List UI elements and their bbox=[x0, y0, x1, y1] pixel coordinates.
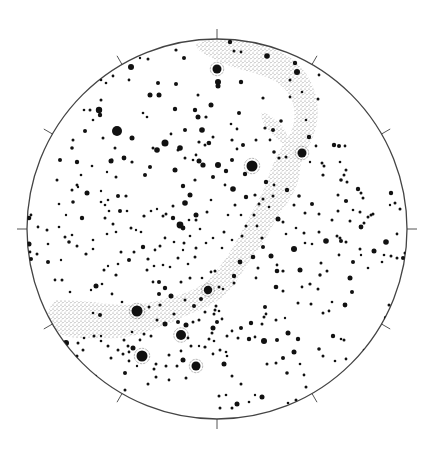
horizon-tick bbox=[44, 324, 53, 329]
star bbox=[331, 334, 335, 338]
star bbox=[255, 277, 258, 280]
star bbox=[172, 312, 175, 315]
star bbox=[286, 331, 291, 336]
horizon-tick bbox=[382, 129, 391, 134]
star bbox=[321, 173, 324, 176]
star bbox=[101, 283, 104, 286]
star bbox=[234, 204, 237, 207]
star bbox=[285, 156, 288, 159]
star bbox=[104, 217, 107, 220]
star bbox=[156, 319, 159, 322]
horizon-tick bbox=[44, 129, 53, 134]
star bbox=[255, 139, 258, 142]
star bbox=[187, 263, 190, 266]
star bbox=[146, 116, 149, 119]
star bbox=[303, 232, 306, 235]
star bbox=[348, 276, 353, 281]
star bbox=[124, 389, 127, 392]
star bbox=[295, 399, 298, 402]
star bbox=[71, 234, 74, 237]
star bbox=[111, 159, 114, 162]
star bbox=[106, 171, 108, 173]
star bbox=[231, 407, 234, 410]
star bbox=[182, 200, 188, 206]
star bbox=[388, 304, 391, 307]
star bbox=[230, 158, 234, 162]
star bbox=[363, 222, 366, 225]
star bbox=[261, 338, 267, 344]
star bbox=[198, 345, 200, 347]
bright-star bbox=[298, 149, 307, 158]
star bbox=[227, 214, 230, 217]
star bbox=[337, 210, 340, 213]
star bbox=[249, 321, 253, 325]
star bbox=[188, 219, 191, 222]
star bbox=[231, 375, 234, 378]
star bbox=[69, 291, 72, 294]
horizon-tick bbox=[117, 56, 122, 65]
star bbox=[72, 139, 75, 142]
star bbox=[339, 178, 343, 182]
star bbox=[221, 318, 224, 321]
star bbox=[214, 309, 217, 312]
star bbox=[122, 353, 125, 356]
star bbox=[284, 317, 286, 319]
star bbox=[210, 271, 213, 274]
star bbox=[287, 402, 290, 405]
star bbox=[260, 236, 263, 239]
star bbox=[37, 226, 40, 229]
star bbox=[133, 251, 136, 254]
star bbox=[183, 128, 187, 132]
star bbox=[181, 358, 186, 363]
star bbox=[148, 93, 153, 98]
star bbox=[241, 235, 244, 238]
star bbox=[127, 345, 130, 348]
star bbox=[184, 157, 187, 160]
star bbox=[237, 337, 240, 340]
star bbox=[180, 350, 183, 353]
star bbox=[183, 242, 186, 245]
bright-star bbox=[176, 330, 186, 340]
star bbox=[345, 358, 348, 361]
star bbox=[285, 233, 288, 236]
star bbox=[148, 306, 151, 309]
star bbox=[104, 204, 107, 207]
star bbox=[146, 257, 149, 260]
star bbox=[233, 282, 236, 285]
star bbox=[91, 165, 94, 168]
star bbox=[224, 184, 227, 187]
star bbox=[83, 109, 86, 112]
star bbox=[226, 335, 229, 338]
star bbox=[155, 376, 158, 379]
star bbox=[58, 158, 62, 162]
star bbox=[46, 229, 49, 232]
star bbox=[194, 213, 199, 218]
star bbox=[263, 316, 266, 319]
star bbox=[247, 35, 250, 38]
star bbox=[57, 110, 64, 117]
star bbox=[236, 148, 239, 151]
star bbox=[239, 80, 243, 84]
star bbox=[337, 194, 340, 197]
star bbox=[80, 174, 83, 177]
star bbox=[381, 261, 384, 264]
star bbox=[143, 173, 147, 177]
star bbox=[184, 299, 187, 302]
star bbox=[112, 75, 115, 78]
star bbox=[197, 94, 200, 97]
star bbox=[223, 231, 226, 234]
horizon-tick bbox=[117, 394, 122, 403]
star bbox=[192, 321, 195, 324]
star bbox=[326, 270, 329, 273]
star bbox=[273, 184, 276, 187]
star bbox=[204, 144, 207, 147]
star bbox=[157, 93, 162, 98]
star bbox=[299, 363, 302, 366]
star bbox=[193, 108, 197, 112]
star bbox=[170, 133, 173, 136]
star bbox=[323, 165, 326, 168]
star bbox=[389, 204, 391, 206]
star bbox=[212, 237, 215, 240]
star bbox=[98, 398, 101, 401]
star bbox=[230, 138, 233, 141]
